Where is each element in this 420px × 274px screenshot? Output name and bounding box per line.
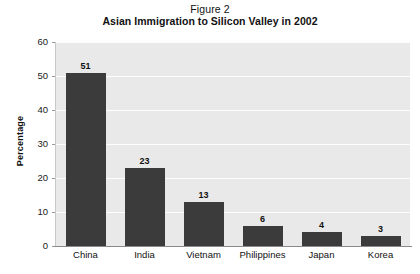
bar-slot: 51: [66, 42, 106, 246]
y-axis-tick-label: 20: [14, 173, 48, 183]
bar-slot: 3: [361, 42, 401, 246]
gridline: [56, 144, 410, 145]
bar-slot: 23: [125, 42, 165, 246]
y-axis-tick-label: 0: [14, 241, 48, 251]
bar-slot: 4: [302, 42, 342, 246]
bar-value-label: 6: [231, 214, 295, 224]
plot-area: 512313643: [56, 42, 410, 246]
bar-value-label: 3: [349, 224, 413, 234]
bar-value-label: 51: [54, 61, 118, 71]
bar-value-label: 23: [113, 156, 177, 166]
chart-title: Asian Immigration to Silicon Valley in 2…: [0, 15, 420, 28]
x-axis-tick-label: Korea: [341, 249, 420, 260]
y-axis-tick-label: 30: [14, 139, 48, 149]
y-axis-tick-label: 40: [14, 105, 48, 115]
y-axis-tick-label: 50: [14, 71, 48, 81]
bar[interactable]: [184, 202, 224, 246]
bar-slot: 13: [184, 42, 224, 246]
bar-value-label: 4: [290, 220, 354, 230]
gridline: [56, 76, 410, 77]
gridline: [56, 178, 410, 179]
gridline: [56, 42, 410, 43]
bar-slot: 6: [243, 42, 283, 246]
gridline: [56, 110, 410, 111]
bar[interactable]: [125, 168, 165, 246]
bar[interactable]: [302, 232, 342, 246]
figure-label: Figure 2: [0, 3, 420, 15]
bar[interactable]: [361, 236, 401, 246]
bar[interactable]: [243, 226, 283, 246]
bar-value-label: 13: [172, 190, 236, 200]
x-axis-line: [54, 246, 412, 247]
y-axis-tick-label: 10: [14, 207, 48, 217]
bar[interactable]: [66, 73, 106, 246]
y-axis-tick-label: 60: [14, 37, 48, 47]
